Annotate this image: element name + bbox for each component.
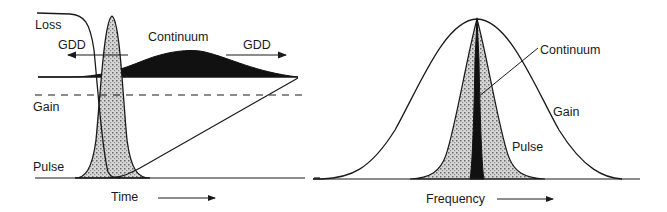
gdd-left-label: GDD: [58, 38, 86, 52]
gain-label-frequency: Gain: [553, 105, 579, 119]
frequency-axis-label: Frequency: [426, 192, 486, 206]
time-domain-panel: Loss GDD Continuum GDD Gain Pulse Time: [33, 13, 320, 204]
continuum-label-time: Continuum: [148, 30, 208, 44]
loss-label: Loss: [35, 18, 61, 32]
gain-curve: [110, 78, 298, 177]
continuum-label-frequency: Continuum: [540, 43, 600, 57]
gdd-right-label: GDD: [243, 38, 271, 52]
time-axis-label: Time: [111, 190, 138, 204]
pulse-temporal-shape: [75, 16, 150, 178]
pulse-label-frequency: Pulse: [512, 140, 543, 154]
diagram-canvas: Loss GDD Continuum GDD Gain Pulse Time C…: [0, 0, 667, 212]
pulse-label-time: Pulse: [33, 160, 64, 174]
frequency-domain-panel: Continuum Gain Pulse Frequency: [313, 19, 640, 206]
gain-label-time: Gain: [33, 100, 59, 114]
